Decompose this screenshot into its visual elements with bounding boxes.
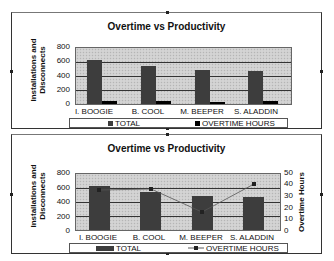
y-tick: 800 — [48, 168, 70, 177]
chart-top[interactable]: Overtime vs Productivity Installations a… — [11, 12, 322, 129]
legend-swatch-total — [96, 246, 114, 251]
legend-item-total[interactable]: TOTAL — [108, 119, 140, 127]
y2-tick: 30 — [284, 191, 293, 200]
chart-title: Overtime vs Productivity — [12, 143, 321, 154]
marker-s-aladdin — [252, 182, 256, 186]
resize-handle-left[interactable] — [10, 193, 13, 196]
y-axis-label: Installations and Disconnects — [29, 156, 49, 236]
x-tick: S. ALADDIN — [221, 107, 291, 116]
plot-area[interactable] — [75, 173, 281, 231]
bar-overtime-b-cool[interactable] — [156, 101, 171, 104]
legend-swatch-line-marker — [188, 245, 204, 251]
y-axis-label: Installations and Disconnects — [29, 30, 49, 110]
bar-overtime-m-beeper[interactable] — [210, 102, 225, 104]
bar-overtime-i-boogie[interactable] — [102, 101, 117, 104]
marker-b-cool — [149, 187, 153, 191]
chart-title: Overtime vs Productivity — [12, 21, 321, 32]
bar-total-b-cool[interactable] — [141, 66, 156, 104]
y-tick: 400 — [48, 71, 70, 80]
y2-tick: 20 — [284, 203, 293, 212]
overtime-hours-line[interactable] — [76, 174, 282, 232]
resize-handle-right[interactable] — [320, 193, 323, 196]
plot-area[interactable] — [75, 47, 292, 105]
y-tick: 600 — [48, 183, 70, 192]
marker-m-beeper — [200, 210, 204, 214]
bar-overtime-s-aladdin[interactable] — [263, 101, 278, 104]
y-tick: 200 — [48, 212, 70, 221]
legend-swatch-total — [108, 121, 113, 126]
legend[interactable]: TOTAL OVERTIME HOURS — [69, 118, 288, 128]
resize-handle-right[interactable] — [320, 70, 323, 73]
y2-axis-label: Overtime Hours — [297, 167, 307, 237]
y2-tick: 50 — [284, 168, 293, 177]
y-tick: 600 — [48, 56, 70, 65]
bar-total-m-beeper[interactable] — [195, 70, 210, 104]
y-tick: 800 — [48, 42, 70, 51]
x-tick: S. ALADDIN — [217, 233, 287, 242]
y2-tick: 40 — [284, 179, 293, 188]
marker-i-boogie — [97, 188, 101, 192]
resize-handle-top[interactable] — [166, 133, 169, 136]
legend-swatch-overtime — [195, 121, 200, 126]
resize-handle-top[interactable] — [166, 11, 169, 14]
bar-total-i-boogie[interactable] — [87, 60, 102, 104]
legend-item-overtime[interactable]: OVERTIME HOURS — [188, 244, 279, 252]
legend[interactable]: TOTAL OVERTIME HOURS — [69, 243, 288, 253]
chart-bottom[interactable]: Overtime vs Productivity Installations a… — [11, 134, 322, 254]
resize-handle-left[interactable] — [10, 70, 13, 73]
bar-total-s-aladdin[interactable] — [248, 71, 263, 104]
gridline — [76, 62, 291, 63]
y-tick: 400 — [48, 197, 70, 206]
legend-item-total[interactable]: TOTAL — [96, 244, 141, 252]
legend-item-overtime[interactable]: OVERTIME HOURS — [195, 119, 275, 127]
y2-tick: 10 — [284, 214, 293, 223]
y-tick: 200 — [48, 85, 70, 94]
